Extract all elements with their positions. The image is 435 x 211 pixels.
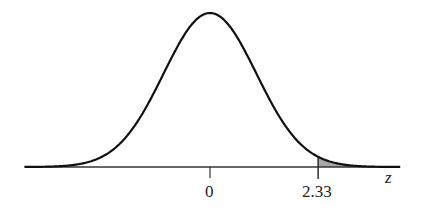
density-curve bbox=[24, 13, 400, 167]
tick-label-cutoff: 2.33 bbox=[302, 182, 332, 202]
axis-label-z: z bbox=[385, 168, 392, 188]
normal-curve-figure bbox=[0, 0, 435, 211]
tick-label-zero: 0 bbox=[205, 182, 214, 202]
